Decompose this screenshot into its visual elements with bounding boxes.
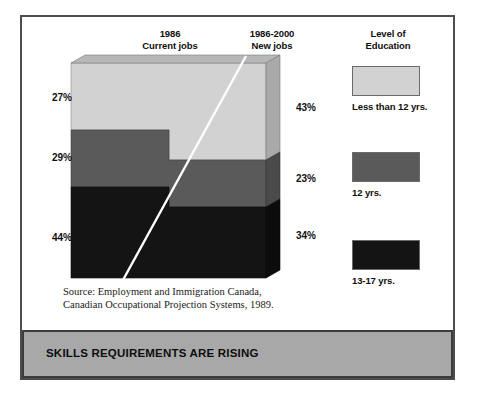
column-heading-current-jobs-year: 1986 <box>120 28 220 40</box>
source-note-line-2: Canadian Occupational Projection Systems… <box>63 299 313 312</box>
legend-title-line-2: Education <box>340 40 436 52</box>
column-heading-new-jobs-years: 1986-2000 <box>222 28 322 40</box>
legend-label-less-than-12: Less than 12 yrs. <box>352 101 452 112</box>
legend-label-13-17-yrs: 13-17 yrs. <box>352 275 452 286</box>
legend-item-12-yrs: 12 yrs. <box>352 152 452 198</box>
bottom-banner: SKILLS REQUIREMENTS ARE RISING <box>22 330 453 378</box>
column-heading-current-jobs: 1986 Current jobs <box>120 28 220 51</box>
legend-item-less-than-12: Less than 12 yrs. <box>352 66 452 112</box>
value-label-new-13-17-yrs: 34% <box>296 230 330 241</box>
source-note-line-1: Source: Employment and Immigration Canad… <box>63 286 313 299</box>
value-label-current-12-yrs: 29% <box>38 152 72 163</box>
value-label-new-12-yrs: 23% <box>296 173 330 184</box>
value-label-current-less-than-12: 27% <box>38 92 72 103</box>
column-heading-new-jobs: 1986-2000 New jobs <box>222 28 322 51</box>
source-note: Source: Employment and Immigration Canad… <box>63 286 313 311</box>
legend-swatch-less-than-12 <box>352 66 420 96</box>
column-heading-current-jobs-text: Current jobs <box>120 40 220 52</box>
legend-title: Level of Education <box>340 28 436 51</box>
value-label-current-13-17-yrs: 44% <box>38 232 72 243</box>
legend-item-13-17-yrs: 13-17 yrs. <box>352 240 452 286</box>
legend-label-12-yrs: 12 yrs. <box>352 187 452 198</box>
column-heading-new-jobs-text: New jobs <box>222 40 322 52</box>
bottom-banner-text: SKILLS REQUIREMENTS ARE RISING <box>46 347 259 359</box>
legend-title-line-1: Level of <box>340 28 436 40</box>
legend-swatch-12-yrs <box>352 152 420 182</box>
figure-root: 1986 Current jobs 1986-2000 New jobs Lev… <box>0 0 478 395</box>
legend-swatch-13-17-yrs <box>352 240 420 270</box>
value-label-new-less-than-12: 43% <box>296 102 330 113</box>
